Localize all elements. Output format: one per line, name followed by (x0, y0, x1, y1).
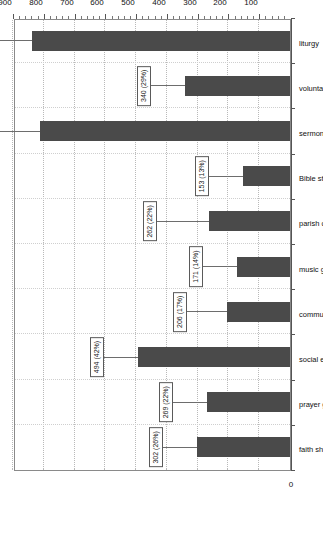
bar-series: 302 (26%)269 (22%)494 (42%)206 (17%)171 … (15, 20, 290, 470)
data-label: 262 (22%) (143, 201, 157, 241)
data-label: 302 (26%) (149, 427, 163, 467)
category-tick (291, 470, 295, 471)
bar-group: 153 (13%) (15, 154, 290, 199)
data-label: 269 (22%) (159, 382, 173, 422)
callout-stem (0, 131, 40, 132)
value-tick-label-text: 800 (29, 0, 42, 7)
bar-group: 340 (29%) (15, 63, 290, 108)
value-tick-label: 100 (247, 0, 256, 9)
value-tick-label-text: 500 (121, 0, 134, 7)
bar-group: 206 (17%) (15, 289, 290, 334)
plot-area: 302 (26%)269 (22%)494 (42%)206 (17%)171 … (14, 19, 291, 471)
data-label: 494 (42%) (90, 337, 104, 377)
value-tick-label-text: 700 (60, 0, 73, 7)
value-tick-label: 600 (93, 0, 102, 9)
category-label: voluntary Organisations (e.g. SVP) (299, 84, 323, 93)
value-axis-zero-text: 0 (289, 480, 293, 489)
callout-stem (0, 40, 32, 41)
category-label: sermons (299, 129, 323, 138)
bar-group: 811 (69%) (15, 108, 290, 153)
category-label: Bible study (299, 174, 323, 183)
bar (237, 257, 290, 277)
category-tick (291, 63, 295, 64)
value-tick-label-text: 400 (152, 0, 165, 7)
category-tick (291, 380, 295, 381)
bar (243, 166, 290, 186)
value-tick-label: 800 (31, 0, 40, 9)
callout-stem (203, 266, 237, 267)
data-label: 340 (29%) (137, 66, 151, 106)
callout-stem (173, 402, 207, 403)
callout-stem (104, 357, 138, 358)
category-label: social events (299, 355, 323, 364)
category-tick (291, 244, 295, 245)
value-tick-label-text: 600 (91, 0, 104, 7)
bar-group: 269 (22%) (15, 380, 290, 425)
category-axis: faith sharing groupsprayer groupssocial … (291, 19, 323, 471)
category-label: liturgy (299, 39, 319, 48)
callout-stem (157, 221, 209, 222)
category-label: faith sharing groups (299, 445, 323, 454)
category-label: music group (299, 265, 323, 274)
data-label: 206 (17%) (173, 292, 187, 332)
category-tick (291, 18, 295, 19)
value-tick-label: 900 (1, 0, 10, 9)
value-tick-label: 300 (185, 0, 194, 9)
category-tick (291, 154, 295, 155)
value-tick-label: 500 (124, 0, 133, 9)
category-label: parish committees (299, 219, 323, 228)
value-tick-label: 700 (62, 0, 71, 9)
bar-chart-figure: 302 (26%)269 (22%)494 (42%)206 (17%)171 … (0, 0, 323, 549)
bar (227, 302, 290, 322)
bar (185, 76, 290, 96)
value-tick-label-text: 900 (0, 0, 12, 7)
category-tick (291, 199, 295, 200)
bar-group: 262 (22%) (15, 199, 290, 244)
chart-canvas: 302 (26%)269 (22%)494 (42%)206 (17%)171 … (0, 0, 323, 549)
category-tick (291, 425, 295, 426)
category-tick (291, 108, 295, 109)
bar (197, 437, 290, 457)
bar (209, 211, 290, 231)
bar-group: 839 (71%) (15, 18, 290, 63)
value-tick-label-text: 100 (245, 0, 258, 7)
value-tick-label-text: 200 (214, 0, 227, 7)
callout-stem (209, 176, 243, 177)
bar-group: 494 (42%) (15, 334, 290, 379)
callout-stem (151, 85, 185, 86)
category-tick (291, 334, 295, 335)
value-tick-label: 200 (216, 0, 225, 9)
value-tick-label-text: 300 (183, 0, 196, 7)
category-label: prayer groups (299, 400, 323, 409)
category-tick (291, 289, 295, 290)
value-tick-label: 400 (154, 0, 163, 9)
value-axis-zero-label: 0 (287, 483, 296, 487)
bar (32, 31, 290, 51)
data-label: 153 (13%) (195, 156, 209, 196)
gridline (12, 20, 13, 470)
callout-stem (163, 447, 197, 448)
callout-stem (187, 311, 227, 312)
category-label: community outreach (299, 310, 323, 319)
bar (138, 347, 290, 367)
bar-group: 171 (14%) (15, 244, 290, 289)
bar (40, 121, 290, 141)
data-label: 171 (14%) (189, 246, 203, 286)
bar (207, 392, 290, 412)
bar-group: 302 (26%) (15, 425, 290, 470)
